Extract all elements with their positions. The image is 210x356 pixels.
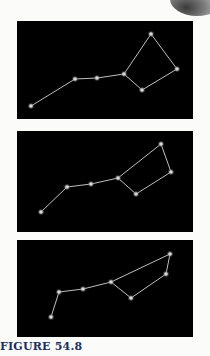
constellation-line [59,289,83,292]
star-icon [29,104,33,108]
constellation-panel-3 [17,240,193,337]
star-icon [57,290,61,294]
constellation-line [111,282,131,298]
constellation-line [67,184,91,187]
constellation-line [166,254,170,274]
constellation-line [131,274,166,298]
constellation-line [31,79,75,106]
star-icon [39,210,43,214]
star-icon [49,315,53,319]
constellation-panel-2 [17,131,193,232]
star-icon [95,76,99,80]
star-icon [175,67,179,71]
constellation-line [91,178,118,184]
constellation-line [41,187,67,212]
star-icon [81,287,85,291]
constellation-line [124,74,142,90]
star-icon [73,77,77,81]
constellation-line [75,78,97,79]
star-icon [65,185,69,189]
constellation-line [151,34,177,69]
photo-fragment [170,0,210,16]
star-icon [149,32,153,36]
star-icon [116,176,120,180]
constellation-panel-1 [17,21,193,119]
star-icon [168,252,172,256]
figure-caption: FIGURE 54.8 [0,340,82,353]
star-icon [159,142,163,146]
constellation-line [118,178,136,194]
constellation-line [83,282,111,289]
constellation-line [142,69,177,90]
star-icon [134,192,138,196]
star-icon [109,280,113,284]
constellation-line [118,144,161,178]
star-icon [164,272,168,276]
constellation-line [124,34,151,74]
constellation-line [51,292,59,317]
star-icon [140,88,144,92]
star-icon [122,72,126,76]
constellation-line [97,74,124,78]
star-icon [169,170,173,174]
constellation-line [136,172,171,194]
star-icon [89,182,93,186]
constellation-line [161,144,171,172]
star-icon [129,296,133,300]
